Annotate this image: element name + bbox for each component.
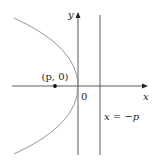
- x-axis-label: x: [143, 91, 149, 102]
- directrix-label: x = −p: [104, 111, 140, 122]
- y-axis-label: y: [67, 9, 74, 20]
- focus-point: [53, 84, 57, 88]
- diagram-canvas: (p, 0) 0 x y x = −p: [0, 0, 155, 167]
- x-axis-arrow-icon: [142, 84, 148, 89]
- focus-label: (p, 0): [42, 71, 69, 82]
- y-axis-arrow-icon: [76, 12, 81, 18]
- parabola-diagram: (p, 0) 0 x y x = −p: [0, 0, 155, 167]
- origin-label: 0: [81, 91, 87, 102]
